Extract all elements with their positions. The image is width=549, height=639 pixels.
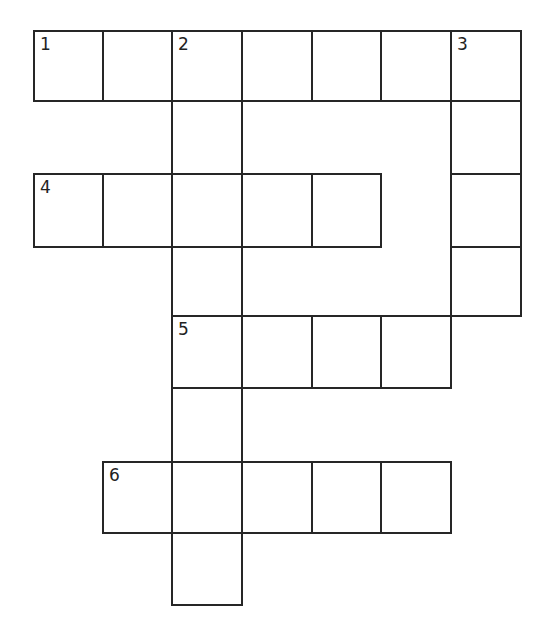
clue-number: 1 (40, 34, 51, 54)
crossword-cell[interactable] (102, 30, 173, 102)
clue-number: 3 (457, 34, 468, 54)
crossword-cell[interactable] (450, 246, 522, 317)
crossword-cell[interactable] (241, 30, 313, 102)
crossword-grid: 123456 (0, 0, 549, 639)
crossword-cell[interactable]: 1 (33, 30, 104, 102)
crossword-cell[interactable] (102, 173, 173, 248)
clue-number: 4 (40, 177, 51, 197)
crossword-cell[interactable] (311, 461, 382, 534)
crossword-cell[interactable] (380, 461, 452, 534)
crossword-cell[interactable] (241, 173, 313, 248)
crossword-cell[interactable] (241, 461, 313, 534)
crossword-cell[interactable] (171, 387, 243, 463)
crossword-cell[interactable] (171, 246, 243, 317)
crossword-cell[interactable] (380, 315, 452, 389)
crossword-cell[interactable]: 2 (171, 30, 243, 102)
crossword-cell[interactable]: 5 (171, 315, 243, 389)
crossword-cell[interactable]: 6 (102, 461, 173, 534)
crossword-cell[interactable] (171, 532, 243, 606)
crossword-cell[interactable] (171, 461, 243, 534)
crossword-cell[interactable] (380, 30, 452, 102)
crossword-cell[interactable] (311, 173, 382, 248)
crossword-cell[interactable] (450, 173, 522, 248)
crossword-cell[interactable] (311, 315, 382, 389)
crossword-cell[interactable] (171, 173, 243, 248)
crossword-cell[interactable] (171, 100, 243, 175)
crossword-cell[interactable] (450, 100, 522, 175)
crossword-cell[interactable]: 3 (450, 30, 522, 102)
crossword-cell[interactable] (311, 30, 382, 102)
clue-number: 5 (178, 319, 189, 339)
clue-number: 6 (109, 465, 120, 485)
crossword-cell[interactable]: 4 (33, 173, 104, 248)
clue-number: 2 (178, 34, 189, 54)
crossword-cell[interactable] (241, 315, 313, 389)
